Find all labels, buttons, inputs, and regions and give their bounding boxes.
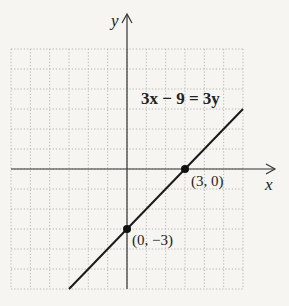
- x-axis-label: x: [264, 175, 273, 194]
- point-marker: [123, 225, 131, 233]
- x-intercept-label: (3, 0): [191, 173, 224, 190]
- point-marker: [181, 165, 189, 173]
- graph-canvas: y x 3x − 9 = 3y (3, 0) (0, −3): [0, 0, 289, 306]
- y-axis-label: y: [109, 11, 119, 30]
- y-intercept-label: (0, −3): [132, 232, 173, 249]
- equation-line: [69, 109, 243, 289]
- equation-label: 3x − 9 = 3y: [141, 89, 220, 108]
